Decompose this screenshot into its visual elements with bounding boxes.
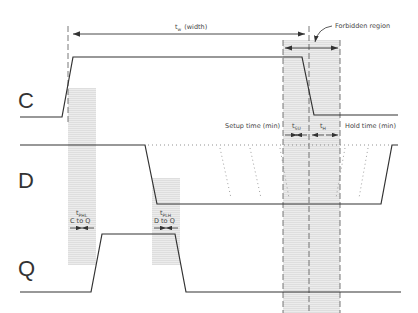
signal-label-d: D xyxy=(18,168,34,193)
tplh-d-to-q: D to Q xyxy=(154,217,175,225)
forbidden-shaded-region xyxy=(283,40,340,313)
signal-label-c: C xyxy=(18,88,34,113)
forbidden-pointer xyxy=(315,26,332,42)
timing-diagram: C D Q tw(width) Forbidden region Setup t… xyxy=(0,0,418,313)
forbidden-region-label: Forbidden region xyxy=(335,22,390,30)
setup-time-label: Setup time (min) xyxy=(225,122,280,130)
hold-time-label: Hold time (min) xyxy=(345,122,396,130)
width-label: tw(width) xyxy=(175,23,207,32)
signal-label-q: Q xyxy=(18,256,35,281)
tphl-shaded-region xyxy=(68,88,96,265)
tphl-c-to-q: C to Q xyxy=(70,217,90,225)
